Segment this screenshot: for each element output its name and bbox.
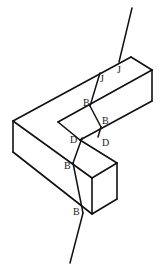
l-block-diagram: J J B B D D B B [0,0,165,276]
label-j-1: J [117,64,121,75]
label-j-2: J [100,73,104,84]
label-b-1: B [83,97,90,108]
label-b-2: B [102,115,109,126]
block-outline [13,57,152,214]
label-b-4: B [73,206,80,217]
label-b-3: B [64,160,71,171]
label-d-1: D [70,134,77,145]
fracture-line [70,8,132,263]
label-d-2: D [102,137,109,148]
